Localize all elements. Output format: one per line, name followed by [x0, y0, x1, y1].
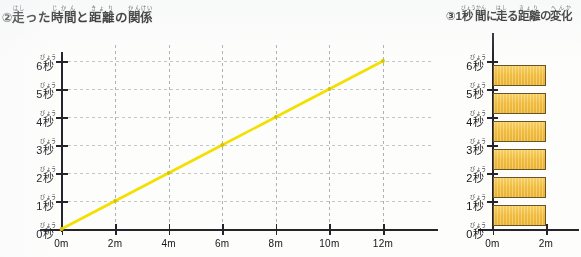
x-axis-label: 6m	[202, 239, 242, 249]
x-axis-label: 12m	[363, 239, 403, 249]
y-axis-tick	[487, 201, 498, 203]
y-label-unit: 秒びょう	[472, 60, 486, 72]
ruby-text: びょう	[470, 138, 486, 144]
ruby-text: びょう	[470, 110, 486, 116]
ruby-text: びょう	[40, 138, 56, 144]
ruby-text: びょう	[470, 82, 486, 88]
y-axis-label: 1秒びょう	[18, 194, 56, 212]
y-axis-label: 0秒びょう	[448, 222, 486, 240]
ruby-text: びょう	[40, 110, 56, 116]
y-axis-label: 3秒びょう	[448, 138, 486, 156]
data-point	[328, 87, 332, 91]
y-axis-label: 1秒びょう	[448, 194, 486, 212]
bar	[493, 177, 547, 198]
y-axis-label: 3秒びょう	[18, 138, 56, 156]
data-point	[60, 227, 64, 231]
y-axis-tick	[487, 117, 498, 119]
x-axis-label: 2m	[95, 239, 135, 249]
y-axis-label: 5秒びょう	[448, 82, 486, 100]
y-axis-label: 2秒びょう	[18, 166, 56, 184]
ruby-text: びょう	[40, 82, 56, 88]
ruby-text: びょう	[40, 166, 56, 172]
y-label-unit: 秒びょう	[472, 200, 486, 212]
worksheet-page: ②走はしった時間じかんと距離きょりの関係かんけい ③1秒間びょうかんに走はしる距…	[0, 0, 581, 257]
bar	[493, 65, 547, 86]
bar	[493, 93, 547, 114]
data-point	[113, 199, 117, 203]
y-axis-tick	[487, 89, 498, 91]
ruby-text: びょう	[470, 222, 486, 228]
y-axis-tick	[487, 61, 498, 63]
y-axis-label: 6秒びょう	[448, 54, 486, 72]
y-label-unit: 秒びょう	[472, 172, 486, 184]
y-axis-label: 2秒びょう	[448, 166, 486, 184]
data-point	[220, 143, 224, 147]
x-axis-label: 8m	[256, 239, 296, 249]
x-axis-label: 0m	[473, 239, 513, 249]
y-axis-label: 0秒びょう	[18, 222, 56, 240]
x-axis-label: 2m	[526, 239, 566, 249]
bar	[493, 149, 547, 170]
x-axis-label: 4m	[149, 239, 189, 249]
y-axis-label: 4秒びょう	[18, 110, 56, 128]
bar	[493, 205, 547, 226]
y-label-unit: 秒びょう	[472, 116, 486, 128]
y-label-unit: 秒びょう	[472, 144, 486, 156]
bar-chart: 0秒びょう1秒びょう2秒びょう3秒びょう4秒びょう5秒びょう6秒びょう 0m2m	[440, 0, 581, 257]
bar	[493, 121, 547, 142]
data-point	[167, 171, 171, 175]
y-axis-tick	[487, 173, 498, 175]
ruby-text: びょう	[470, 54, 486, 60]
line-chart: 0秒びょう1秒びょう2秒びょう3秒びょう4秒びょう5秒びょう6秒びょう 0m2m…	[0, 0, 440, 257]
y-label-unit: 秒びょう	[42, 60, 56, 72]
y-axis-label: 5秒びょう	[18, 82, 56, 100]
y-label-unit: 秒びょう	[42, 116, 56, 128]
y-label-unit: 秒びょう	[42, 172, 56, 184]
x-axis-tick	[546, 224, 548, 235]
y-label-unit: 秒びょう	[472, 88, 486, 100]
line-chart-plot	[0, 0, 440, 257]
y-axis-label: 6秒びょう	[18, 54, 56, 72]
y-label-unit: 秒びょう	[42, 144, 56, 156]
ruby-text: びょう	[40, 222, 56, 228]
x-axis-tick	[493, 224, 495, 235]
ruby-text: びょう	[40, 54, 56, 60]
x-axis-label: 10m	[309, 239, 349, 249]
y-axis-label: 4秒びょう	[448, 110, 486, 128]
y-label-unit: 秒びょう	[42, 200, 56, 212]
data-point	[274, 115, 278, 119]
y-axis-tick	[487, 145, 498, 147]
data-point	[381, 59, 385, 63]
ruby-text: びょう	[470, 166, 486, 172]
ruby-text: びょう	[40, 194, 56, 200]
x-axis-label: 0m	[42, 239, 82, 249]
y-label-unit: 秒びょう	[42, 88, 56, 100]
ruby-text: びょう	[470, 194, 486, 200]
